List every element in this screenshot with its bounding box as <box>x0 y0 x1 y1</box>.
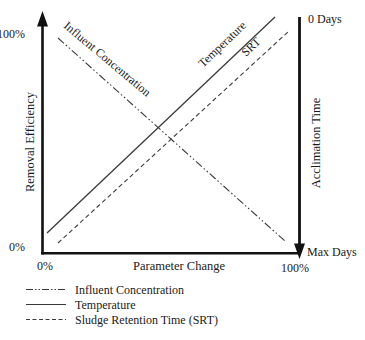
chart-canvas: Influent Concentration Temperature SRT 1… <box>0 0 365 340</box>
down-arrow-icon <box>294 244 305 260</box>
right-axis-top-tick: 0 Days <box>308 12 342 26</box>
left-y-axis <box>37 11 48 255</box>
x-axis-right-tick: 100% <box>281 261 309 275</box>
srt-line <box>58 31 289 243</box>
legend-item-srt: Sludge Retention Time (SRT) <box>26 313 218 327</box>
legend-label-influent: Influent Concentration <box>75 283 184 297</box>
right-y-axis <box>294 17 305 259</box>
up-arrow-icon <box>37 11 48 27</box>
left-axis-top-tick: 100% <box>0 27 25 41</box>
legend-item-influent: Influent Concentration <box>26 283 184 297</box>
right-axis-title: Acclimation Time <box>309 97 323 188</box>
influent-line-label: Influent Concentration <box>61 19 153 100</box>
acclimation-chart-figure: Influent Concentration Temperature SRT 1… <box>0 0 365 340</box>
srt-line-label: SRT <box>238 34 264 59</box>
left-axis-title: Removal Efficiency <box>23 91 37 192</box>
legend-label-srt: Sludge Retention Time (SRT) <box>75 313 218 327</box>
right-axis-bottom-tick: Max Days <box>307 245 357 259</box>
left-axis-bottom-tick: 0% <box>9 240 25 254</box>
x-axis-title: Parameter Change <box>133 259 225 273</box>
temperature-line-label: Temperature <box>195 18 248 70</box>
x-axis-left-tick: 0% <box>37 259 53 273</box>
legend-item-temperature: Temperature <box>26 298 135 312</box>
legend: Influent Concentration Temperature Sludg… <box>26 283 218 327</box>
legend-label-temperature: Temperature <box>75 298 135 312</box>
